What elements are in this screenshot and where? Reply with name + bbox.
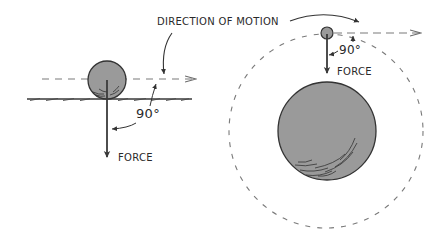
right-force-label: FORCE (337, 66, 372, 77)
direction-of-motion-callout: DIRECTION OF MOTION (157, 15, 359, 74)
orbit-motion-pointer (290, 15, 359, 22)
right-angle-arc (329, 51, 338, 55)
left-scene: 90° FORCE (27, 61, 196, 163)
left-angle-arc-upper (150, 84, 156, 106)
left-angle-arc (112, 123, 136, 129)
right-scene: 90° FORCE (229, 27, 423, 228)
physics-diagram: 90° FORCE DIRECTION OF MOTION 90° FORCE (0, 0, 441, 237)
right-angle-label: 90° (339, 43, 361, 57)
left-angle-label: 90° (136, 106, 160, 121)
direction-of-motion-label: DIRECTION OF MOTION (157, 16, 279, 27)
planet (278, 82, 376, 180)
left-motion-pointer (163, 33, 172, 74)
left-force-label: FORCE (118, 152, 153, 163)
